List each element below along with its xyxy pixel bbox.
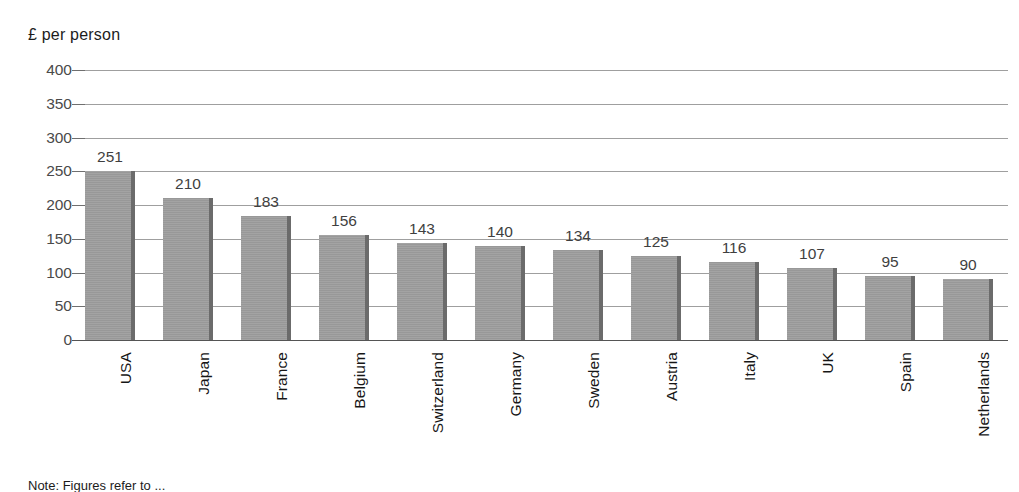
y-axis-tick xyxy=(72,273,85,274)
gridline xyxy=(85,70,1008,71)
x-axis-baseline xyxy=(72,340,1008,341)
bar-value-label: 107 xyxy=(799,245,825,263)
bar-value-label: 156 xyxy=(331,212,357,230)
y-axis-tick-label: 250 xyxy=(46,162,72,180)
gridline xyxy=(85,205,1008,206)
y-axis-tick-label: 100 xyxy=(46,264,72,282)
bar xyxy=(85,171,135,340)
y-axis-tick xyxy=(72,171,85,172)
y-axis-tick xyxy=(72,239,85,240)
x-axis-category-label: Switzerland xyxy=(429,352,447,433)
y-axis-tick xyxy=(72,138,85,139)
bar-value-label: 95 xyxy=(881,253,898,271)
x-axis-category-label: UK xyxy=(819,352,837,374)
bar xyxy=(475,246,525,341)
bar xyxy=(319,235,369,340)
x-axis-category-label: Netherlands xyxy=(975,352,993,437)
bar xyxy=(787,268,837,340)
bar xyxy=(865,276,915,340)
y-axis-tick-label: 200 xyxy=(46,196,72,214)
bar-value-label: 125 xyxy=(643,233,669,251)
bar-value-label: 183 xyxy=(253,193,279,211)
y-axis-tick xyxy=(72,104,85,105)
bar xyxy=(709,262,759,340)
bar-value-label: 210 xyxy=(175,175,201,193)
y-axis-tick-label: 150 xyxy=(46,230,72,248)
x-axis-category-label: Germany xyxy=(507,352,525,416)
x-axis-category-label: USA xyxy=(117,352,135,384)
gridline xyxy=(85,171,1008,172)
x-axis-category-label: France xyxy=(273,352,291,401)
bar xyxy=(241,216,291,340)
bar xyxy=(163,198,213,340)
bar-value-label: 143 xyxy=(409,220,435,238)
chart-footnote: Note: Figures refer to ... xyxy=(28,478,165,492)
x-axis-category-label: Sweden xyxy=(585,352,603,409)
y-axis-tick-label: 50 xyxy=(55,297,72,315)
gridline xyxy=(85,104,1008,105)
x-axis-category-label: Austria xyxy=(663,352,681,401)
y-axis-tick xyxy=(72,306,85,307)
gridline xyxy=(85,138,1008,139)
chart-axis-title: £ per person xyxy=(28,26,120,44)
y-axis-tick xyxy=(72,205,85,206)
bar xyxy=(553,250,603,340)
bar-value-label: 134 xyxy=(565,227,591,245)
bar xyxy=(631,256,681,340)
y-axis-tick-label: 350 xyxy=(46,95,72,113)
y-axis-tick xyxy=(72,70,85,71)
bar-value-label: 90 xyxy=(959,256,976,274)
y-axis-tick-label: 300 xyxy=(46,129,72,147)
x-axis-category-label: Belgium xyxy=(351,352,369,409)
y-axis-tick-label: 400 xyxy=(46,61,72,79)
plot-area: 2512101831561431401341251161079590 xyxy=(85,70,1008,340)
y-axis-tick-labels: 400350300250200150100500 xyxy=(14,70,72,340)
bar xyxy=(397,243,447,340)
x-axis-category-label: Japan xyxy=(195,352,213,395)
gridline xyxy=(85,239,1008,240)
bar-value-label: 140 xyxy=(487,223,513,241)
bar-value-label: 116 xyxy=(722,239,747,257)
bar xyxy=(943,279,993,340)
y-axis-tick-label: 0 xyxy=(63,331,72,349)
x-axis-category-label: Italy xyxy=(741,352,759,381)
bar-chart-figure: £ per person 400350300250200150100500 25… xyxy=(0,0,1019,492)
gridline xyxy=(85,273,1008,274)
bar-value-label: 251 xyxy=(97,148,123,166)
x-axis-category-label: Spain xyxy=(897,352,915,392)
